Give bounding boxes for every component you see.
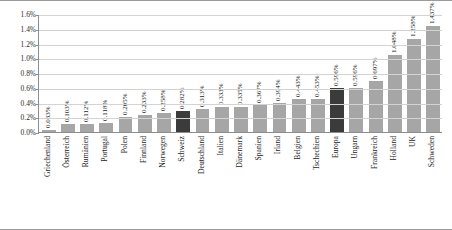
bar-value-label: 0.033% <box>45 106 52 128</box>
x-axis-category-slot: Polen <box>115 134 134 230</box>
x-axis-category-label: Finnland <box>140 136 148 163</box>
bar-value-label: 0.596% <box>333 64 340 86</box>
x-axis-category-label: Belgien <box>294 136 302 160</box>
y-axis: 1.6%1.4%1.2%1.0%0.8%0.6%0.4%0.2%0.0% <box>0 15 36 133</box>
bar-value-label: 0.443% <box>295 76 302 98</box>
gridline <box>39 74 442 75</box>
y-axis-tick-label: 0.4% <box>2 100 36 108</box>
y-axis-tick-label: 0.8% <box>2 70 36 78</box>
x-axis-category-slot: Spanien <box>250 134 269 230</box>
y-axis-tick-label: 1.6% <box>2 11 36 19</box>
bar-value-label: 0.233% <box>141 91 148 113</box>
bar-value-label: 0.282% <box>179 88 186 110</box>
x-axis-category-label: Holland <box>390 136 398 160</box>
bar[interactable] <box>99 123 113 132</box>
gridline <box>39 104 442 105</box>
y-axis-tick-label: 0.0% <box>2 129 36 137</box>
bar-value-label: 0.367% <box>256 81 263 103</box>
x-axis-category-label: Schweden <box>429 136 437 167</box>
x-axis-category-slot: Schweiz <box>173 134 192 230</box>
x-axis-category-slot: Tschechien <box>307 134 326 230</box>
x-axis-category-slot: Irland <box>269 134 288 230</box>
x-axis-category-label: Europa <box>333 136 341 158</box>
y-axis-tick-label: 1.0% <box>2 55 36 63</box>
x-axis-category-slot: Dänemark <box>230 134 249 230</box>
bar-value-label: 0.394% <box>276 79 283 101</box>
x-axis-category-label: Österreich <box>63 136 71 168</box>
x-axis-category-label: Dänemark <box>236 136 244 168</box>
x-axis-category-slot: Frankreich <box>365 134 384 230</box>
y-axis-tick-label: 0.6% <box>2 85 36 93</box>
bar-value-label: 0.697% <box>372 57 379 79</box>
bar-value-label: 1.437% <box>430 2 437 24</box>
bar[interactable] <box>349 88 363 132</box>
x-axis-category-slot: Deutschland <box>192 134 211 230</box>
bar[interactable] <box>157 113 171 132</box>
bar-value-label: 0.453% <box>314 75 321 97</box>
x-axis-category-label: Rumänien <box>82 136 90 167</box>
gridline <box>39 45 442 46</box>
bar[interactable] <box>388 55 402 132</box>
bar-highlighted[interactable] <box>176 111 190 132</box>
x-axis-category-label: Tschechien <box>313 136 321 170</box>
bar-value-label: 0.335% <box>237 84 244 106</box>
gridline <box>39 89 442 90</box>
bar-highlighted[interactable] <box>330 88 344 132</box>
x-axis-category-label: Spanien <box>256 136 264 160</box>
x-axis-category-label: Polen <box>121 136 129 153</box>
bar-value-label: 1.048% <box>391 31 398 53</box>
x-axis-category-slot: Italien <box>211 134 230 230</box>
bar-value-label: 0.258% <box>160 89 167 111</box>
y-axis-tick-label: 1.2% <box>2 41 36 49</box>
gridline <box>39 118 442 119</box>
x-axis-category-label: UK <box>410 136 418 147</box>
gridline <box>39 59 442 60</box>
x-axis-category-slot: Finnland <box>134 134 153 230</box>
x-axis-category-slot: Norwegen <box>153 134 172 230</box>
x-axis-category-slot: Schweden <box>423 134 442 230</box>
bar[interactable] <box>426 26 440 132</box>
chart-figure: 1.6%1.4%1.2%1.0%0.8%0.6%0.4%0.2%0.0% 0.0… <box>0 0 452 230</box>
bar-value-label: 0.596% <box>353 64 360 86</box>
x-axis-category-slot: Portugal <box>96 134 115 230</box>
bar[interactable] <box>215 107 229 132</box>
bar[interactable] <box>42 130 56 132</box>
bar-value-label: 1.258% <box>410 16 417 38</box>
x-axis-category-slot: UK <box>404 134 423 230</box>
x-axis-category-label: Frankreich <box>371 136 379 169</box>
x-axis-category-slot: Griechenland <box>38 134 57 230</box>
x-axis-category-slot: Ungarn <box>346 134 365 230</box>
bar[interactable] <box>80 124 94 132</box>
y-axis-tick-label: 0.2% <box>2 114 36 122</box>
x-axis-category-labels: GriechenlandÖsterreichRumänienPortugalPo… <box>38 134 442 230</box>
x-axis-category-slot: Rumänien <box>76 134 95 230</box>
bar-value-label: 0.333% <box>218 84 225 106</box>
gridline <box>39 15 442 16</box>
y-axis-tick-label: 1.4% <box>2 26 36 34</box>
gridline <box>39 30 442 31</box>
x-axis-category-slot: Belgien <box>288 134 307 230</box>
x-axis-category-slot: Europa <box>327 134 346 230</box>
x-axis-category-label: Griechenland <box>44 136 52 177</box>
bar[interactable] <box>61 124 75 132</box>
x-axis-category-label: Italien <box>217 136 225 155</box>
x-axis-category-label: Schweiz <box>179 136 187 162</box>
plot-area: 0.033%0.103%0.112%0.118%0.205%0.233%0.25… <box>38 15 442 133</box>
x-axis-category-label: Portugal <box>102 136 110 162</box>
x-axis-category-label: Deutschland <box>198 136 206 174</box>
bar[interactable] <box>196 109 210 132</box>
x-axis-category-slot: Holland <box>384 134 403 230</box>
x-axis-category-label: Irland <box>275 136 283 154</box>
x-axis-category-slot: Österreich <box>57 134 76 230</box>
bar[interactable] <box>234 107 248 132</box>
x-axis-category-label: Ungarn <box>352 136 360 159</box>
x-axis-category-label: Norwegen <box>159 136 167 168</box>
